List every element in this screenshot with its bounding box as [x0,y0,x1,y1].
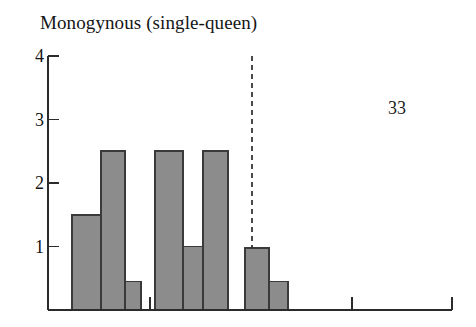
bar-bin-5 [183,247,203,311]
bar-bin-7 [245,248,269,310]
bar-bin-6 [203,151,228,310]
bars-group [72,151,288,310]
chart-figure: Monogynous (single-queen) 33 4 3 2 1 [0,0,476,327]
bar-bin-2 [101,151,125,310]
bar-bin-8 [269,281,288,310]
plot-area [0,0,476,327]
bar-bin-4 [155,151,183,310]
bar-bin-1 [72,215,101,310]
bar-bin-3 [125,281,141,310]
